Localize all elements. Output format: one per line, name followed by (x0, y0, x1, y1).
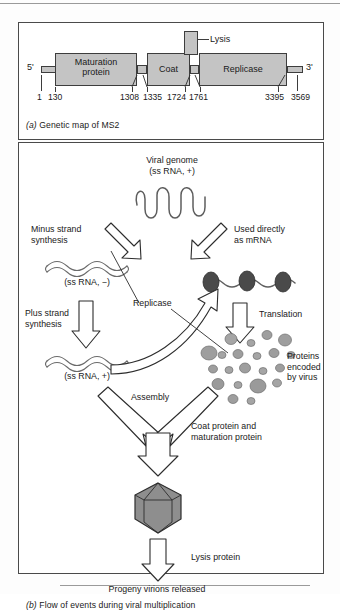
plus-strand-synthesis-label: Plus strand synthesis (25, 308, 69, 329)
arrow-plus-strand-synthesis (72, 301, 100, 348)
panel-a-caption: (a) Genetic map of MS2 (26, 120, 119, 130)
arrow-used-directly-mrna (191, 223, 227, 259)
assembly-label: Assembly (131, 392, 169, 403)
minus-strand-synthesis-label: Minus strand synthesis (31, 224, 81, 245)
ss-rna-plus-label: (ss RNA, +) (41, 371, 133, 382)
ribosome-3 (275, 272, 291, 292)
lysis-protein-label: Lysis protein (191, 552, 240, 563)
used-directly-mrna-label: Used directly as mRNA (234, 224, 285, 245)
coordinate-1308: 1308 (120, 92, 139, 102)
proteins-encoded-label: Proteins encoded by virus (287, 351, 321, 383)
coordinate-130: 130 (48, 92, 62, 102)
ribosome-1 (203, 272, 219, 292)
viral-genome-squiggle (136, 188, 205, 218)
arrow-lysis-release (142, 539, 174, 581)
progeny-virions-label: Progeny virions released (67, 584, 247, 595)
arrow-minus-strand-synthesis (105, 223, 141, 259)
replicase-label: Replicase (133, 298, 172, 309)
coordinate-1: 1 (37, 92, 42, 102)
rna-minus-strand (46, 262, 129, 277)
mrna-with-ribosomes (203, 271, 295, 292)
ss-rna-minus-label: (ss RNA, −) (41, 277, 133, 288)
ribosome-2 (239, 271, 255, 291)
panel-a-genetic-map: 5' 3' Maturation protein Coat Replicase … (18, 22, 324, 140)
panel-b-graphics (19, 143, 325, 575)
translation-label: Translation (259, 309, 302, 320)
coordinate-3395: 3395 (265, 92, 284, 102)
coat-maturation-protein-label: Coat protein and maturation protein (191, 421, 262, 442)
coordinate-1761: 1761 (189, 92, 208, 102)
coordinate-3569: 3569 (291, 92, 310, 102)
virion-capsid (135, 483, 181, 533)
page-top-rule (0, 3, 340, 4)
coordinate-1335: 1335 (143, 92, 162, 102)
coordinate-1724: 1724 (167, 92, 186, 102)
panel-b-multiplication-flow: Viral genome (ss RNA, +) (18, 142, 324, 574)
panel-b-caption: (b) Flow of events during viral multipli… (26, 600, 195, 610)
